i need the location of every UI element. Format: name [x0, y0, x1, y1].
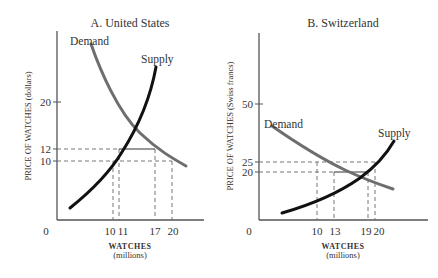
panel-a-title: A. United States [91, 16, 170, 30]
panel-a-xtick-11: 11 [118, 225, 129, 237]
panel-b-x-sublabel: (millions) [326, 250, 360, 260]
panel-b-xtick-20: 20 [374, 225, 386, 237]
panel-a-supply-label: Supply [141, 53, 174, 66]
chart-canvas: A. United States PRICE OF WATCHES (dolla… [0, 0, 438, 278]
panel-b-demand-label: Demand [264, 118, 303, 130]
panel-a-ytick-12: 12 [40, 143, 51, 155]
panel-b-y-label: PRICE OF WATCHES (Swiss francs) [225, 61, 235, 190]
panel-a-xtick-20: 20 [168, 225, 180, 237]
panel-b-xtick-13: 13 [330, 225, 342, 237]
panel-b-origin: 0 [246, 225, 252, 237]
panel-a-xtick-17: 17 [150, 225, 162, 237]
panel-b-xtick-19: 19 [361, 225, 373, 237]
panel-a-y-label: PRICE OF WATCHES (dollars) [23, 71, 33, 180]
panel-a-origin: 0 [43, 225, 49, 237]
panel-b-supply-label: Supply [378, 127, 411, 140]
panel-a-xtick-10: 10 [105, 225, 117, 237]
panel-b-xtick-10: 10 [312, 225, 324, 237]
panel-a-reference-lines [57, 149, 172, 220]
panel-b-title: B. Switzerland [307, 16, 378, 30]
panel-a-ytick-20: 20 [40, 96, 52, 108]
panel-a-demand-label: Demand [70, 35, 109, 47]
panel-b-supply-curve [282, 141, 394, 213]
panel-b-ytick-50: 50 [242, 98, 254, 110]
panel-b-ytick-20: 20 [242, 166, 254, 178]
panel-switzerland: B. Switzerland PRICE OF WATCHES (Swiss f… [225, 16, 428, 260]
panel-a-ytick-10: 10 [40, 155, 52, 167]
panel-b-reference-lines [259, 162, 375, 220]
panel-a-x-sublabel: (millions) [113, 250, 147, 260]
panel-united-states: A. United States PRICE OF WATCHES (dolla… [23, 16, 204, 260]
